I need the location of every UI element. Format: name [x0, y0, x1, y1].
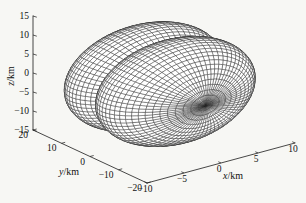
- z-axis-label: z/km: [5, 66, 16, 87]
- y-tick-label: −10: [99, 170, 114, 180]
- z-axis-tick: [33, 111, 37, 112]
- figure: 151050−5−10−1520100−10−20−10−50510 z/km …: [0, 0, 306, 203]
- x-tick-label: 10: [288, 144, 298, 154]
- z-tick-label: −10: [14, 106, 29, 116]
- x-tick-label: 5: [254, 154, 259, 164]
- z-axis-tick: [33, 54, 37, 55]
- x-axis-label: x/km: [222, 170, 243, 181]
- figure-svg: 151050−5−10−1520100−10−20−10−50510 z/km …: [0, 0, 306, 203]
- x-axis-unit: /km: [227, 170, 243, 181]
- z-axis-unit: /km: [5, 66, 16, 82]
- y-axis-label: y/km: [58, 166, 79, 177]
- z-tick-label: −5: [19, 87, 29, 97]
- y-tick-label: 10: [47, 143, 57, 153]
- z-axis-tick: [33, 92, 37, 93]
- z-tick-label: 10: [20, 30, 30, 40]
- z-axis-tick: [33, 16, 37, 17]
- x-tick-label: 0: [217, 164, 222, 174]
- x-tick-label: −5: [177, 174, 187, 184]
- y-axis-unit: /km: [63, 166, 79, 177]
- z-tick-label: 5: [24, 49, 29, 59]
- y-axis-tick: [90, 156, 94, 157]
- mesh-layer: [64, 22, 255, 147]
- y-tick-label: 0: [80, 157, 85, 167]
- x-tick-label: −10: [138, 184, 153, 194]
- z-tick-label: 0: [24, 68, 29, 78]
- y-axis-tick: [62, 142, 66, 143]
- z-tick-label: 15: [20, 11, 30, 21]
- y-axis-tick: [33, 129, 37, 130]
- z-axis-tick: [33, 73, 37, 74]
- y-tick-label: 20: [19, 130, 29, 140]
- y-axis-tick: [119, 169, 123, 170]
- z-axis-tick: [33, 35, 37, 36]
